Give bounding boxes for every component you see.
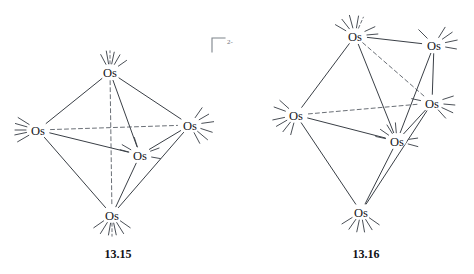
atom-label-os-right: Os: [425, 97, 439, 111]
ligand-stub-os-top-1: [106, 51, 108, 64]
ligand-stub-os-left-5: [291, 123, 294, 135]
ligand-stub-os-top-right-2: [442, 32, 452, 39]
ligand-stub-os-top-left-0: [335, 25, 345, 31]
atom-label-os-right: Os: [183, 119, 197, 133]
atom-label-os-center: Os: [390, 135, 404, 149]
ligand-stub-os-left-3: [15, 124, 27, 127]
bond-os-left-os-bottom: [44, 137, 105, 207]
bond-hidden-os-left-os-right: [50, 125, 177, 129]
ligand-stub-os-top-right-1: [439, 27, 445, 37]
bond-os-right-os-bottom: [366, 111, 427, 204]
structure-canvas: OsOsOsOsOs2-OsOsOsOsOsOs 13.1513.16: [0, 0, 474, 274]
bond-os-top-right-os-right: [432, 54, 433, 95]
ligand-stub-os-bottom-0: [120, 221, 130, 228]
caption-structure-13-15: 13.15: [105, 247, 132, 261]
ligand-stub-os-right-2: [202, 122, 214, 124]
ligand-stub-os-left-2: [273, 117, 285, 119]
bond-os-left-os-bottom: [301, 123, 356, 204]
ligand-stub-os-top-left-5: [367, 34, 378, 35]
ligand-stub-os-center-5: [408, 144, 418, 147]
ligand-stub-os-top-right-3: [445, 40, 457, 42]
atom-label-os-bottom: Os: [354, 206, 368, 220]
ligand-stub-os-right-4: [438, 110, 445, 118]
ligand-stub-os-right-2: [444, 104, 455, 105]
bond-os-top-left-os-left: [302, 44, 350, 108]
bond-hidden-os-top-left-os-right: [363, 43, 425, 97]
ligand-stub-os-top-4: [118, 60, 126, 66]
ligand-stub-os-top-right-0: [419, 30, 427, 38]
ligand-stub-os-right-3: [201, 129, 212, 133]
chemistry-figure: OsOsOsOsOs2-OsOsOsOsOsOs 13.1513.16: [0, 0, 474, 274]
ligand-stub-os-bottom-5: [94, 221, 104, 228]
bond-os-top-left-os-top-right: [367, 37, 421, 43]
ligand-stub-os-left-0: [274, 107, 285, 111]
ligand-stub-os-top-0: [101, 55, 106, 65]
ligand-stub-os-top-left-3: [356, 16, 358, 28]
structure-13-16: OsOsOsOsOsOs: [273, 15, 457, 232]
charge-label: 2-: [227, 38, 234, 46]
ligand-stub-os-center-4: [152, 157, 161, 159]
bond-os-center-os-bottom: [365, 149, 393, 204]
bond-os-left-os-center: [50, 133, 128, 152]
ligand-stub-os-top-left-1: [342, 19, 349, 28]
ligand-stub-os-bottom-0: [369, 218, 379, 225]
ligand-stub-os-top-left-4: [365, 27, 375, 32]
ligand-stub-os-center-4: [409, 138, 418, 139]
ligand-stub-os-right-0: [195, 108, 202, 118]
bond-hidden-os-left-os-right: [308, 104, 419, 114]
atom-label-os-left: Os: [289, 109, 303, 123]
ligand-stub-os-bottom-3: [108, 223, 110, 235]
ligand-stub-os-bottom-2: [114, 223, 117, 235]
ligand-stub-os-bottom-4: [100, 223, 107, 234]
ligand-stub-os-left-1: [15, 132, 27, 134]
bond-hidden-os-top-os-bottom: [110, 81, 112, 207]
structure-13-15: OsOsOsOsOs2-: [15, 38, 234, 236]
bond-os-top-left-os-center: [358, 44, 393, 132]
ligand-stub-os-top-right-4: [446, 47, 457, 49]
bond-os-top-os-left: [46, 79, 102, 124]
ligand-stub-os-bottom-5: [342, 218, 352, 224]
bond-os-left-os-center: [308, 118, 386, 138]
ligand-stub-os-center-3: [395, 123, 396, 133]
ligand-stub-os-left-1: [280, 100, 289, 108]
ligand-stub-os-right-5: [194, 133, 200, 144]
bond-os-right-os-center: [149, 131, 180, 150]
ligand-stub-os-left-4: [18, 118, 29, 125]
ligand-stub-os-top-2: [112, 52, 115, 64]
ligand-stub-os-right-4: [198, 131, 208, 139]
ligand-stub-os-bottom-3: [357, 220, 360, 232]
ligand-stub-os-right-1: [199, 114, 209, 120]
bond-os-center-os-bottom: [116, 163, 136, 207]
atom-label-os-center: Os: [133, 149, 147, 163]
ligand-stub-os-left-3: [276, 120, 286, 126]
ligand-stub-os-center-1: [122, 145, 131, 150]
ligand-stub-dashed-os-top-left-0: [358, 17, 363, 28]
ligand-stub-os-left-4: [283, 122, 290, 131]
atom-label-os-top: Os: [103, 66, 117, 80]
bond-os-right-os-bottom: [118, 132, 183, 207]
ligand-stub-os-right-1: [443, 96, 453, 99]
ligand-stub-os-top-3: [114, 55, 120, 65]
bond-os-top-os-center: [113, 80, 137, 146]
bond-os-top-os-right: [119, 78, 181, 119]
structure-13-15-charge: 2-: [212, 38, 234, 52]
ligand-stub-os-top-left-2: [349, 15, 352, 28]
atom-label-os-bottom: Os: [105, 209, 119, 223]
atom-label-os-top-right: Os: [427, 39, 441, 53]
atom-label-os-top-left: Os: [348, 30, 362, 44]
caption-structure-13-16: 13.16: [353, 247, 380, 261]
ligand-stub-os-center-1: [380, 129, 388, 135]
ligand-stub-os-right-3: [442, 108, 453, 113]
ligand-stub-os-bottom-1: [366, 220, 372, 230]
ligand-stub-os-bottom-2: [362, 220, 364, 232]
ligand-stub-os-center-3: [151, 148, 159, 151]
atom-label-os-left: Os: [31, 124, 45, 138]
charge-bracket: [212, 38, 225, 52]
ligand-stub-os-left-0: [18, 135, 29, 142]
ligand-stub-os-bottom-4: [349, 219, 356, 229]
ligand-stub-os-bottom-1: [117, 223, 124, 234]
